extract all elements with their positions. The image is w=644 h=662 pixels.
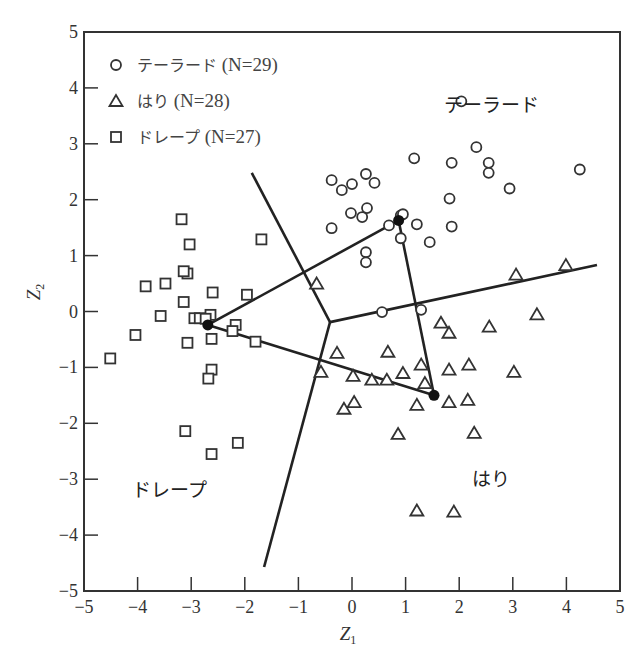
data-point-triangle — [410, 505, 423, 516]
data-point-circle — [327, 223, 337, 233]
centroid-dot — [429, 390, 440, 401]
data-point-square — [179, 297, 189, 307]
legend-label: はり (N=28) — [137, 90, 230, 112]
x-tick-label: −3 — [182, 597, 201, 617]
data-point-triangle — [434, 317, 447, 328]
region-label: はり — [472, 468, 510, 490]
x-tick-label: 1 — [401, 597, 410, 617]
data-point-circle — [377, 307, 387, 317]
data-point-circle — [384, 220, 394, 230]
legend-square-icon — [111, 132, 121, 142]
data-point-triangle — [468, 427, 481, 438]
data-point-square — [207, 449, 217, 459]
data-point-square — [177, 214, 187, 224]
data-point-square — [182, 338, 192, 348]
data-point-triangle — [330, 347, 343, 358]
x-tick-label: −4 — [128, 597, 147, 617]
data-point-square — [180, 426, 190, 436]
data-point-triangle — [396, 367, 409, 378]
legend-circle-icon — [111, 60, 121, 70]
y-tick-label: −2 — [59, 413, 78, 433]
data-point-triangle — [381, 346, 394, 357]
data-point-circle — [505, 184, 515, 194]
data-point-triangle — [507, 366, 520, 377]
data-point-circle — [396, 233, 406, 243]
data-point-triangle — [483, 321, 496, 332]
data-point-circle — [471, 142, 481, 152]
region-label: テーラード — [444, 94, 539, 116]
data-point-circle — [337, 185, 347, 195]
data-point-circle — [346, 208, 356, 218]
data-point-triangle — [443, 396, 456, 407]
data-point-square — [251, 337, 261, 347]
y-tick-label: 3 — [69, 134, 78, 154]
data-point-circle — [484, 168, 494, 178]
data-point-triangle — [462, 359, 475, 370]
data-point-circle — [347, 179, 357, 189]
data-point-square — [242, 290, 252, 300]
data-point-circle — [425, 237, 435, 247]
data-point-circle — [370, 178, 380, 188]
data-point-circle — [575, 165, 585, 175]
data-point-square — [233, 438, 243, 448]
decision-boundary-line — [330, 265, 597, 322]
legend-triangle-icon — [110, 95, 123, 106]
data-point-square — [227, 326, 237, 336]
x-tick-label: 4 — [562, 597, 571, 617]
data-point-triangle — [392, 428, 405, 439]
data-point-triangle — [410, 399, 423, 410]
x-tick-label: 2 — [455, 597, 464, 617]
data-point-square — [141, 281, 151, 291]
x-tick-label: 0 — [348, 597, 357, 617]
centroid-dot — [202, 319, 213, 330]
centroid-dot — [393, 215, 404, 226]
decision-boundary-line — [252, 173, 330, 322]
y-tick-label: −3 — [59, 469, 78, 489]
y-axis-title: Z2 — [23, 284, 47, 301]
data-point-circle — [409, 153, 419, 163]
data-point-square — [130, 330, 140, 340]
data-point-circle — [362, 203, 372, 213]
x-tick-label: 3 — [508, 597, 517, 617]
y-tick-label: 5 — [69, 22, 78, 42]
data-point-circle — [445, 194, 455, 204]
region-label: ドレープ — [132, 479, 207, 501]
data-point-square — [179, 266, 189, 276]
data-point-square — [156, 311, 166, 321]
data-point-circle — [484, 158, 494, 168]
data-point-square — [105, 353, 115, 363]
data-point-triangle — [510, 269, 523, 280]
data-point-square — [203, 374, 213, 384]
data-point-circle — [447, 158, 457, 168]
centroid-connector-line — [208, 220, 399, 325]
data-point-triangle — [310, 278, 323, 289]
x-tick-label: −2 — [235, 597, 254, 617]
y-tick-label: −1 — [59, 357, 78, 377]
data-point-square — [207, 334, 217, 344]
y-tick-label: −5 — [59, 581, 78, 601]
y-tick-label: −4 — [59, 525, 78, 545]
data-point-circle — [361, 257, 371, 267]
y-tick-label: 1 — [69, 246, 78, 266]
data-point-square — [160, 279, 170, 289]
x-tick-label: −1 — [289, 597, 308, 617]
legend-label: ドレープ (N=27) — [137, 126, 261, 148]
data-point-square — [185, 239, 195, 249]
legend-label: テーラード (N=29) — [137, 54, 278, 76]
data-point-square — [208, 287, 218, 297]
data-point-square — [256, 234, 266, 244]
data-point-triangle — [348, 396, 361, 407]
data-point-triangle — [447, 506, 460, 517]
data-point-circle — [361, 169, 371, 179]
discriminant-scatter-chart: −5−4−3−2−1012345−5−4−3−2−1012345 テーラード (… — [0, 0, 644, 662]
x-axis-title: Z1 — [340, 623, 357, 647]
data-point-circle — [412, 219, 422, 229]
y-tick-label: 4 — [69, 78, 78, 98]
data-point-circle — [361, 247, 371, 257]
data-point-circle — [416, 305, 426, 315]
centroid-connector-line — [208, 325, 434, 395]
legend: テーラード (N=29)はり (N=28)ドレープ (N=27) — [110, 54, 278, 148]
data-point-circle — [447, 222, 457, 232]
y-tick-label: 0 — [69, 302, 78, 322]
data-point-triangle — [443, 364, 456, 375]
